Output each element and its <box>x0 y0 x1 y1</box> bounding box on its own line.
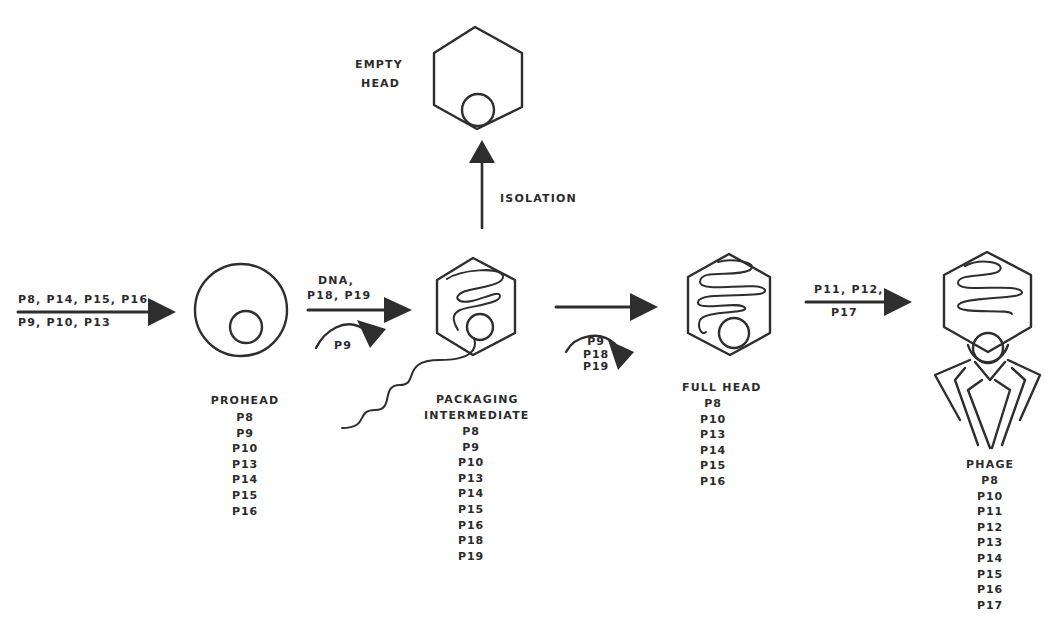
p9-release-label: P9 <box>334 339 352 352</box>
protein-item: P13 <box>215 457 275 473</box>
protein-item: P13 <box>446 471 496 487</box>
protein-item: P17 <box>965 598 1015 614</box>
protein-item: P8 <box>446 424 496 440</box>
protein-item: P18 <box>446 533 496 549</box>
protein-item: P10 <box>215 441 275 457</box>
protein-item: P16 <box>688 474 738 490</box>
empty-head-label-line1: EMPTY <box>355 58 403 71</box>
phage-shape <box>935 252 1040 448</box>
protein-item: P19 <box>580 361 612 374</box>
full-head-label: FULL HEAD <box>682 381 761 394</box>
packaging-protein-list: P8 P9 P10 P13 P14 P15 P16 P18 P19 <box>446 424 496 564</box>
protein-item: P15 <box>688 458 738 474</box>
protein-item: P9 <box>580 336 612 349</box>
input-arrow-label-below: P9, P10, P13 <box>18 316 111 329</box>
protein-item: P15 <box>965 567 1015 583</box>
protein-item: P13 <box>688 427 738 443</box>
tail-arrow-label-above: P11, P12, <box>814 283 884 296</box>
protein-item: P19 <box>446 549 496 565</box>
protein-item: P10 <box>965 489 1015 505</box>
protein-item: P11 <box>965 504 1015 520</box>
dna-arrow-label-line2: P18, P19 <box>307 289 371 302</box>
protein-item: P16 <box>446 518 496 534</box>
assembly-pathway-diagram <box>0 0 1045 632</box>
prohead-shape <box>195 264 287 356</box>
packaging-label-line2: INTERMEDIATE <box>424 409 530 422</box>
input-arrow-label-above: P8, P14, P15, P16 <box>18 293 148 306</box>
protein-item: P10 <box>446 455 496 471</box>
tail-arrow-label-below: P17 <box>831 306 858 319</box>
protein-item: P8 <box>965 473 1015 489</box>
protein-item: P12 <box>965 520 1015 536</box>
empty-head-label-line2: HEAD <box>361 77 400 90</box>
protein-item: P14 <box>965 551 1015 567</box>
protein-item: P9 <box>215 426 275 442</box>
packaging-to-fullhead-arrow <box>556 293 658 321</box>
empty-head-shape <box>434 27 522 129</box>
protein-item: P16 <box>215 504 275 520</box>
protein-item: P13 <box>965 535 1015 551</box>
protein-item: P15 <box>446 502 496 518</box>
dna-arrow-label-line1: DNA, <box>318 274 354 287</box>
protein-item: P16 <box>965 582 1015 598</box>
prohead-protein-list: P8 P9 P10 P13 P14 P15 P16 <box>215 410 275 519</box>
scaffold-release-list: P9 P18 P19 <box>580 336 612 374</box>
protein-item: P15 <box>215 488 275 504</box>
protein-item: P14 <box>215 472 275 488</box>
protein-item: P8 <box>688 396 738 412</box>
full-head-shape <box>688 254 770 355</box>
phage-label: PHAGE <box>966 458 1014 471</box>
prohead-label: PROHEAD <box>205 394 285 407</box>
phage-protein-list: P8 P10 P11 P12 P13 P14 P15 P16 P17 <box>965 473 1015 613</box>
isolation-arrow <box>469 140 495 228</box>
protein-item: P14 <box>688 443 738 459</box>
protein-item: P14 <box>446 486 496 502</box>
protein-item: P10 <box>688 412 738 428</box>
isolation-label: ISOLATION <box>500 192 577 205</box>
full-head-protein-list: P8 P10 P13 P14 P15 P16 <box>688 396 738 490</box>
protein-item: P9 <box>446 440 496 456</box>
packaging-label-line1: PACKAGING <box>436 393 519 406</box>
protein-item: P8 <box>215 410 275 426</box>
